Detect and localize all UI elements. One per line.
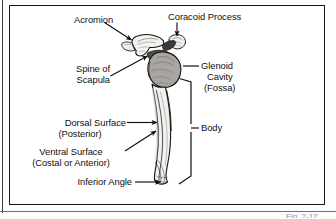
- label-ventral-surface: Ventral Surface (Costal or Anterior): [17, 146, 125, 168]
- label-inferior-angle: Inferior Angle: [50, 176, 132, 187]
- label-acromion-text: Acromion: [74, 14, 113, 25]
- label-acromion: Acromion: [74, 14, 113, 25]
- label-ventral-surface-line2: (Costal or Anterior): [17, 157, 125, 168]
- figure-caption-text: Fig. 2-12: [286, 213, 318, 218]
- label-body-text: Body: [201, 122, 222, 133]
- label-inferior-angle-text: Inferior Angle: [77, 176, 132, 187]
- label-spine-of-scapula-line1: Spine of: [26, 63, 110, 74]
- label-dorsal-surface-line2: (Posterior): [34, 128, 126, 139]
- label-glenoid-cavity-line1: Glenoid: [201, 60, 235, 71]
- label-dorsal-surface-line1: Dorsal Surface: [34, 117, 126, 128]
- figure-caption: Fig. 2-12: [286, 213, 318, 218]
- label-spine-of-scapula-line2: Scapula: [26, 74, 110, 85]
- ventral-surface-leader: [125, 131, 156, 151]
- label-glenoid-cavity-line3: (Fossa): [201, 82, 235, 93]
- label-ventral-surface-line1: Ventral Surface: [17, 146, 125, 157]
- spine-of-scapula-leader: [111, 56, 148, 76]
- label-coracoid-process-text: Coracoid Process: [168, 11, 241, 22]
- label-body: Body: [201, 122, 222, 133]
- label-glenoid-cavity-line2: Cavity: [201, 71, 235, 82]
- scapula-bone: [122, 35, 186, 184]
- body-brace: [179, 79, 191, 185]
- label-dorsal-surface: Dorsal Surface (Posterior): [34, 117, 126, 139]
- label-coracoid-process: Coracoid Process: [168, 11, 241, 22]
- label-spine-of-scapula: Spine of Scapula: [26, 63, 110, 85]
- label-glenoid-cavity: Glenoid Cavity (Fossa): [201, 60, 235, 94]
- figure-root: Acromion Coracoid Process Spine of Scapu…: [0, 0, 336, 219]
